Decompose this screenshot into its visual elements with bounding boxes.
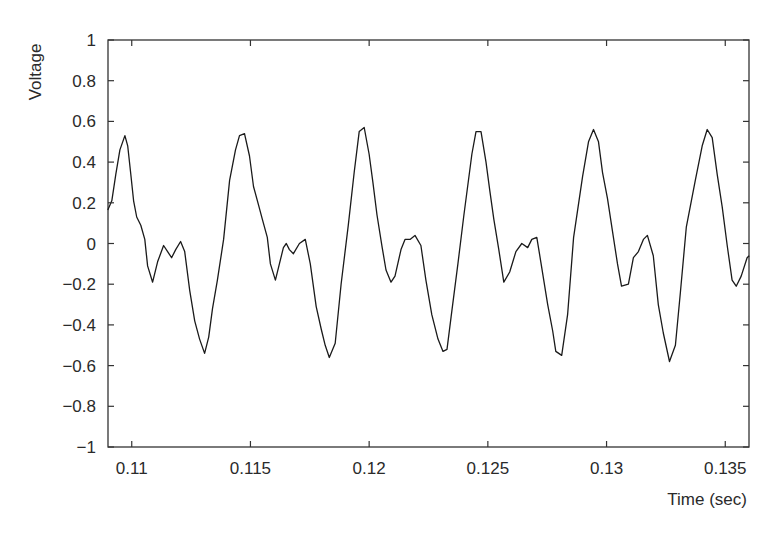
y-tick-label: −0.2 bbox=[62, 275, 96, 294]
plot-frame bbox=[108, 40, 749, 447]
y-tick-label: 1 bbox=[87, 31, 96, 50]
x-axis: 0.110.1150.120.1250.130.135 bbox=[116, 40, 747, 478]
y-axis: 10.80.60.40.20−0.2−0.4−0.6−0.8−1 bbox=[62, 31, 749, 457]
plot-area bbox=[108, 40, 749, 447]
x-tick-label: 0.12 bbox=[353, 459, 386, 478]
y-tick-label: −1 bbox=[77, 438, 96, 457]
chart-canvas: 0.110.1150.120.1250.130.135 10.80.60.40.… bbox=[0, 0, 781, 540]
x-tick-label: 0.13 bbox=[590, 459, 623, 478]
x-tick-label: 0.115 bbox=[230, 459, 271, 478]
y-tick-label: 0.6 bbox=[72, 112, 96, 131]
y-tick-label: −0.8 bbox=[62, 397, 96, 416]
voltage-time-chart: 0.110.1150.120.1250.130.135 10.80.60.40.… bbox=[0, 0, 781, 540]
x-tick-label: 0.11 bbox=[116, 459, 148, 478]
y-tick-label: 0.8 bbox=[72, 72, 96, 91]
y-tick-label: 0.4 bbox=[72, 153, 96, 172]
voltage-waveform-line bbox=[108, 128, 749, 362]
x-axis-title: Time (sec) bbox=[667, 490, 747, 509]
x-tick-label: 0.135 bbox=[704, 459, 747, 478]
x-tick-label: 0.125 bbox=[467, 459, 510, 478]
y-tick-label: −0.6 bbox=[62, 357, 96, 376]
y-axis-title: Voltage bbox=[26, 44, 45, 101]
y-tick-label: −0.4 bbox=[62, 316, 96, 335]
y-tick-label: 0 bbox=[87, 235, 96, 254]
y-tick-label: 0.2 bbox=[72, 194, 96, 213]
